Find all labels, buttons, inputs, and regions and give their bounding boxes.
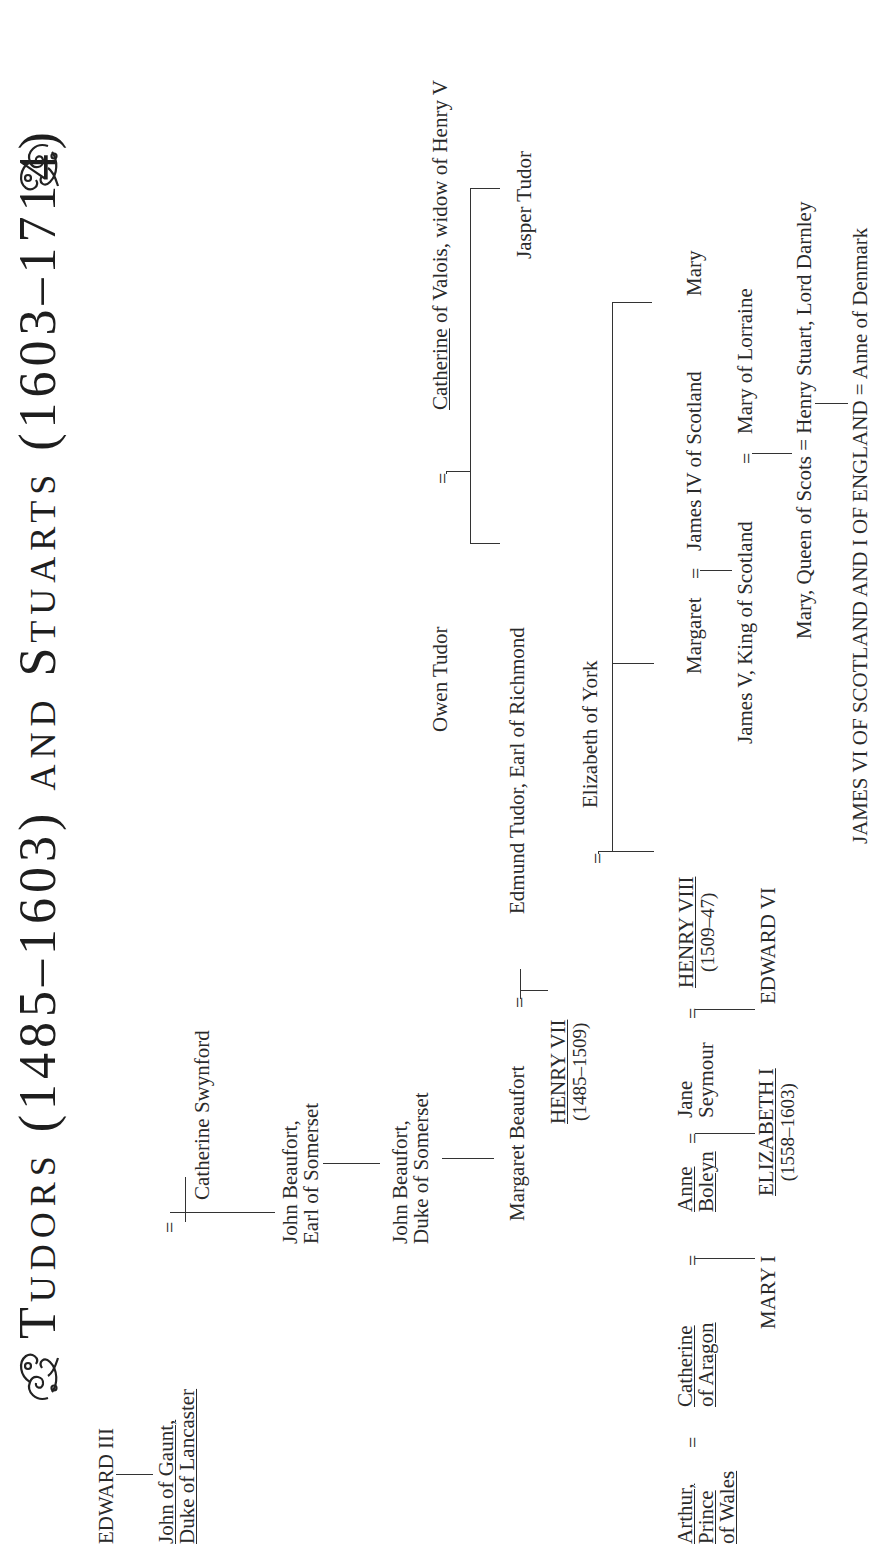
line-to-john-beaufort-duke (323, 1163, 380, 1164)
marriage-symbol: = (683, 1133, 703, 1144)
arthur-title-2: of Wales (717, 1471, 738, 1544)
person-jasper-tudor: Jasper Tudor (512, 151, 536, 259)
marriage-symbol: = (848, 383, 872, 395)
person-henry-viii: HENRY VIII (1509–47) (676, 877, 718, 988)
title-initial-t: T (9, 1302, 66, 1339)
person-elizabeth-i: ELIZABETH I (1558–1603) (756, 1068, 798, 1196)
person-john-beaufort-earl: John Beaufort, Earl of Somerset (280, 1103, 322, 1244)
line-owen-children-stem (446, 471, 470, 472)
marriage-symbol: = (433, 473, 453, 484)
line-to-margaret-beaufort (442, 1158, 494, 1159)
title-stuarts: TUARTS (23, 469, 63, 643)
person-edward-iii: EDWARD III (94, 1428, 118, 1544)
line-to-james-vi (815, 403, 848, 404)
john-beaufort-duke-title: Duke of Somerset (411, 1092, 432, 1244)
line-henry-vii-children-stem (598, 851, 612, 852)
henry-vii-dates: (1485–1509) (569, 1020, 590, 1124)
person-elizabeth-of-york: Elizabeth of York (578, 660, 602, 808)
ornament-right-icon (8, 138, 66, 196)
ornament-left-icon (8, 1348, 66, 1406)
person-catherine-of-valois: Catherine of Valois, widow of Henry V (428, 80, 452, 410)
person-edward-vi: EDWARD VI (756, 887, 780, 1004)
person-james-vi-i: JAMES VI OF SCOTLAND AND I OF ENGLAND = … (848, 228, 872, 844)
henry-vii-name: HENRY VII (548, 1020, 569, 1124)
person-james-v: James V, King of Scotland (733, 521, 757, 744)
marriage-symbol: = (683, 1437, 703, 1448)
title-tudor-dates: (1485–1603) (9, 809, 66, 1133)
person-catherine-of-aragon: Catherine of Aragon (675, 1322, 717, 1407)
person-mary-of-lorraine: Mary of Lorraine (733, 288, 757, 434)
person-margaret-beaufort: Margaret Beaufort (505, 1066, 529, 1221)
line-edward-to-john (116, 1474, 153, 1475)
person-mary-i: MARY I (756, 1256, 780, 1329)
line-to-jasper-tudor (470, 188, 500, 189)
person-arthur: Arthur, Prince of Wales (675, 1471, 738, 1544)
marriage-symbol: = (160, 1222, 180, 1233)
catherine-of-valois-name: Catherine (428, 328, 452, 410)
henry-viii-dates: (1509–47) (697, 877, 718, 988)
title-initial-s: S (9, 643, 66, 677)
person-jane-seymour: Jane Seymour (675, 1042, 717, 1118)
catherine-of-aragon-title: of Aragon (696, 1322, 717, 1407)
marriage-symbol: = (683, 1255, 703, 1266)
james-vi-i-name: JAMES VI OF SCOTLAND AND I OF ENGLAND (848, 400, 872, 844)
line-to-henry-viii (612, 851, 654, 852)
person-mary: Mary (682, 251, 706, 297)
henry-viii-name: HENRY VIII (676, 877, 697, 988)
person-owen-tudor: Owen Tudor (428, 626, 452, 732)
title-tudors: UDORS (23, 1150, 63, 1302)
line-to-henry-vii (520, 990, 548, 991)
line-to-mary (612, 302, 652, 303)
person-john-of-gaunt: John of Gaunt, Duke of Lancaster (156, 1389, 198, 1544)
person-mary-queen-of-scots: Mary, Queen of Scots = Henry Stuart, Lor… (792, 202, 816, 639)
anne-of-denmark-name: Anne of Denmark (848, 228, 872, 380)
person-margaret: Margaret (682, 597, 706, 674)
john-of-gaunt-name: John of Gaunt, (156, 1389, 177, 1544)
elizabeth-i-name: ELIZABETH I (756, 1068, 777, 1196)
marriage-symbol: = (792, 439, 816, 451)
line-to-john-beaufort-earl (170, 1212, 275, 1213)
line-henry-vii-children-bar (612, 302, 613, 852)
person-james-iv: James IV of Scotland (682, 371, 706, 551)
line-owen-children-bar (470, 188, 471, 544)
line-to-edward-vi (695, 1009, 755, 1010)
jane-seymour-name: Jane (675, 1042, 696, 1118)
mary-queen-of-scots-name: Mary, Queen of Scots (792, 456, 816, 639)
elizabeth-i-dates: (1558–1603) (777, 1068, 798, 1196)
person-anne-boleyn: Anne Boleyn (675, 1151, 717, 1212)
line-to-james-v (700, 570, 732, 571)
anne-boleyn-name: Anne (675, 1151, 696, 1212)
john-of-gaunt-title: Duke of Lancaster (177, 1389, 198, 1544)
catherine-of-aragon-name: Catherine (675, 1322, 696, 1407)
john-beaufort-duke-name: John Beaufort, (390, 1092, 411, 1244)
john-beaufort-earl-name: John Beaufort, (280, 1103, 301, 1244)
person-john-beaufort-duke: John Beaufort, Duke of Somerset (390, 1092, 432, 1244)
henry-stuart-name: Henry Stuart, Lord Darnley (792, 202, 816, 434)
line-gaunt-swynford-child (185, 1177, 186, 1222)
line-to-elizabeth-i (695, 1133, 755, 1134)
title-and: AND (23, 695, 63, 791)
family-tree-canvas: TUDORS (1485–1603) AND STUARTS (1603–171… (0, 0, 885, 1544)
page-title: TUDORS (1485–1603) AND STUARTS (1603–171… (8, 127, 73, 1339)
person-edmund-tudor: Edmund Tudor, Earl of Richmond (505, 627, 529, 914)
catherine-of-valois-title: of Valois, widow of Henry V (428, 80, 452, 328)
person-catherine-swynford: Catherine Swynford (190, 1030, 214, 1200)
line-to-edmund-tudor (470, 543, 500, 544)
person-henry-vii: HENRY VII (1485–1509) (548, 1020, 590, 1124)
marriage-symbol: = (737, 453, 757, 464)
arthur-name: Arthur, (675, 1471, 696, 1544)
anne-boleyn-surname: Boleyn (696, 1151, 717, 1212)
line-to-margaret (612, 663, 654, 664)
jane-seymour-surname: Seymour (696, 1042, 717, 1118)
john-beaufort-earl-title: Earl of Somerset (301, 1103, 322, 1244)
marriage-symbol: = (588, 853, 608, 864)
arthur-title-1: Prince (696, 1471, 717, 1544)
line-beaufort-tudor-marriage (520, 969, 521, 999)
line-to-mary-i (695, 1258, 755, 1259)
line-to-mary-queen-of-scots (752, 453, 792, 454)
